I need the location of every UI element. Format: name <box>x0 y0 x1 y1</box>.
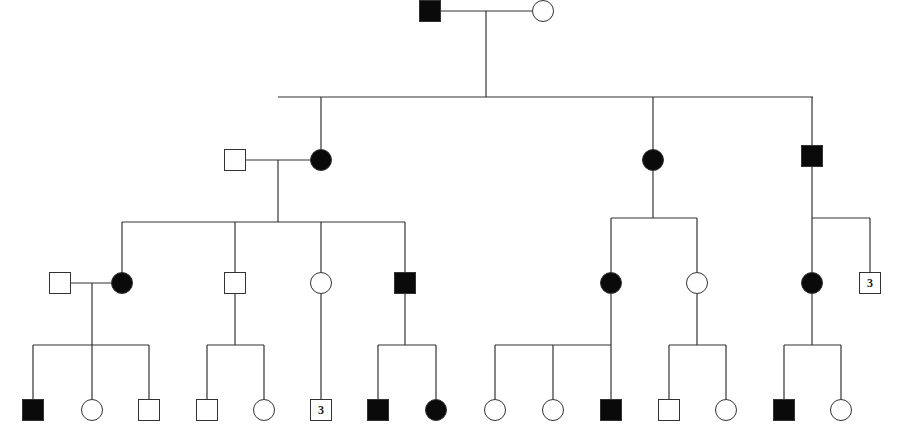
male-affected-symbol <box>22 399 44 421</box>
female-unaffected-symbol <box>81 399 103 421</box>
female-unaffected-symbol <box>532 0 554 22</box>
male-unaffected-symbol <box>658 399 680 421</box>
male-unaffected-symbol <box>49 272 71 294</box>
female-affected-symbol <box>310 149 332 171</box>
female-unaffected-symbol <box>310 272 332 294</box>
male-affected-symbol <box>394 272 416 294</box>
female-unaffected-symbol <box>715 399 737 421</box>
female-unaffected-symbol <box>542 399 564 421</box>
male-affected-symbol <box>773 399 795 421</box>
male-affected-symbol <box>801 145 823 167</box>
pedigree-lines <box>0 0 900 439</box>
male-unaffected-symbol: 3 <box>310 399 332 421</box>
female-unaffected-symbol <box>830 399 852 421</box>
male-affected-symbol <box>419 0 441 22</box>
female-unaffected-symbol <box>253 399 275 421</box>
male-affected-symbol <box>600 399 622 421</box>
sibling-count-label: 3 <box>860 273 880 293</box>
male-unaffected-symbol <box>138 399 160 421</box>
female-affected-symbol <box>642 149 664 171</box>
female-unaffected-symbol <box>484 399 506 421</box>
male-unaffected-symbol <box>224 272 246 294</box>
female-affected-symbol <box>425 399 447 421</box>
female-affected-symbol <box>111 272 133 294</box>
female-affected-symbol <box>600 272 622 294</box>
male-unaffected-symbol: 3 <box>859 272 881 294</box>
pedigree-chart: 33 <box>0 0 900 439</box>
male-unaffected-symbol <box>196 399 218 421</box>
female-unaffected-symbol <box>686 272 708 294</box>
male-affected-symbol <box>367 399 389 421</box>
male-unaffected-symbol <box>224 149 246 171</box>
sibling-count-label: 3 <box>311 400 331 420</box>
female-affected-symbol <box>801 272 823 294</box>
